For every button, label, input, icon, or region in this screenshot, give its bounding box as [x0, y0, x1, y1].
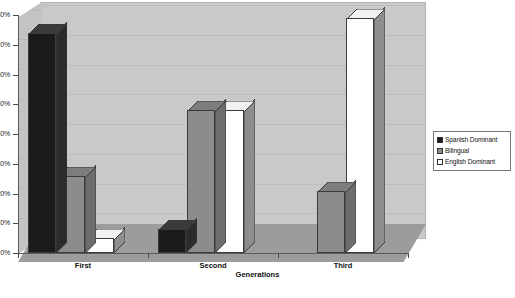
bar-front-face: [28, 33, 56, 253]
bar-second-spanish-dominant: [158, 229, 186, 253]
x-axis-label: Second: [199, 261, 226, 270]
y-axis-label: 50%: [0, 100, 10, 108]
bar-front-face: [317, 191, 345, 253]
legend-label: Spanish Dominant: [445, 136, 497, 144]
y-axis-tick: [13, 45, 18, 46]
bar-top-face: [158, 218, 197, 229]
x-axis-tick: [278, 253, 279, 258]
legend-item: English Dominant: [437, 157, 507, 167]
y-axis-label: 40%: [0, 130, 10, 138]
bar-third-bilingual: [317, 191, 345, 253]
y-axis-label: 80%: [0, 11, 10, 19]
bar-top-face: [28, 22, 67, 33]
y-axis-label: 30%: [0, 160, 10, 168]
legend-item: Bilingual: [437, 146, 507, 156]
legend-label: English Dominant: [445, 158, 495, 166]
legend-label: Bilingual: [445, 147, 469, 155]
x-axis-label: Third: [334, 261, 353, 270]
legend-swatch-icon: [437, 137, 443, 143]
y-axis-tick: [13, 223, 18, 224]
y-axis-label: 70%: [0, 41, 10, 49]
y-axis-tick: [13, 164, 18, 165]
bar-first-spanish-dominant: [28, 33, 56, 253]
legend-item: Spanish Dominant: [437, 135, 507, 145]
y-axis-tick: [13, 194, 18, 195]
y-axis-tick: [13, 104, 18, 105]
y-axis-label: 20%: [0, 190, 10, 198]
bar-top-face: [187, 99, 226, 110]
y-axis-tick: [13, 134, 18, 135]
legend-swatch-icon: [437, 148, 443, 154]
x-axis-tick: [408, 253, 409, 258]
x-axis-tick: [18, 253, 19, 258]
bar-top-face: [346, 7, 385, 18]
x-axis-tick: [148, 253, 149, 258]
y-axis-line: [18, 15, 19, 253]
bar-side-face: [215, 99, 226, 253]
bar-side-face: [56, 22, 67, 253]
chart-legend: Spanish DominantBilingualEnglish Dominan…: [433, 131, 511, 171]
bar-chart-figure: 80%70%60%50%40%30%20%10%0% FirstSecondTh…: [0, 0, 515, 298]
bar-top-face: [317, 180, 356, 191]
y-axis-label: 0%: [0, 249, 10, 257]
y-axis-label: 60%: [0, 71, 10, 79]
y-axis-label: 10%: [0, 219, 10, 227]
gridline-stub: [18, 10, 42, 11]
x-axis-line: [18, 253, 408, 254]
bar-side-face: [374, 7, 385, 253]
x-axis-title: Generations: [0, 270, 515, 279]
bar-side-face: [244, 99, 255, 253]
gridline: [41, 5, 425, 6]
bar-front-face: [158, 229, 186, 253]
y-axis-tick: [13, 15, 18, 16]
plot-area: [18, 2, 426, 290]
legend-swatch-icon: [437, 159, 443, 165]
y-axis-tick: [13, 75, 18, 76]
x-axis-label: First: [75, 261, 91, 270]
